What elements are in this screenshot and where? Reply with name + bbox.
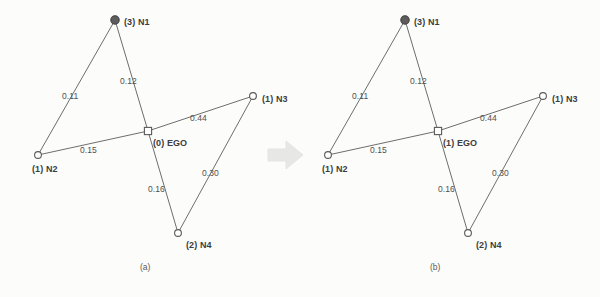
edge-weight-label: 0.12 [120, 77, 137, 86]
node-label-n4: (2) N4 [186, 241, 212, 250]
graph-node-ego[interactable] [144, 127, 151, 134]
node-label-n2: (1) N2 [32, 165, 58, 174]
edge-weight-label: 0.16 [438, 185, 455, 194]
edge-weight-label: 0.44 [480, 114, 497, 123]
graph-node-n2[interactable] [325, 152, 332, 159]
edge-weight-label: 0.30 [202, 169, 219, 178]
graph-edge [38, 20, 115, 155]
node-label-n3: (1) N3 [262, 95, 288, 104]
diagram-panel-b: (3) N1(1) N2(1) N3(2) N4(1) EGO0.110.120… [290, 0, 580, 297]
graph-node-n2[interactable] [35, 152, 42, 159]
node-label-n2: (1) N2 [322, 165, 348, 174]
graph-node-n4[interactable] [175, 230, 182, 237]
panel-caption-a: (a) [140, 262, 150, 272]
node-label-n3: (1) N3 [552, 95, 578, 104]
edge-weight-label: 0.30 [492, 169, 509, 178]
graph-node-n1[interactable] [401, 16, 409, 24]
node-label-ego: (0) EGO [153, 139, 187, 148]
graph-canvas-a [0, 0, 290, 297]
graph-node-n1[interactable] [111, 16, 119, 24]
node-label-ego: (1) EGO [443, 139, 477, 148]
edge-weight-label: 0.44 [190, 114, 207, 123]
node-label-n4: (2) N4 [476, 241, 502, 250]
node-label-n1: (3) N1 [124, 18, 150, 27]
edge-weight-label: 0.12 [410, 77, 427, 86]
graph-node-n4[interactable] [465, 230, 472, 237]
edge-weight-label: 0.16 [148, 185, 165, 194]
diagram-panel-a: (3) N1(1) N2(1) N3(2) N4(0) EGO0.110.120… [0, 0, 290, 297]
graph-node-n3[interactable] [540, 93, 547, 100]
graph-edge [328, 20, 405, 155]
graph-node-ego[interactable] [434, 127, 441, 134]
graph-node-n3[interactable] [250, 93, 257, 100]
edge-weight-label: 0.11 [62, 92, 78, 101]
graph-canvas-b [290, 0, 580, 297]
figure-container: (3) N1(1) N2(1) N3(2) N4(0) EGO0.110.120… [0, 0, 600, 297]
edge-weight-label: 0.15 [80, 146, 97, 155]
edge-weight-label: 0.15 [370, 146, 387, 155]
node-label-n1: (3) N1 [414, 18, 440, 27]
panel-caption-b: (b) [430, 262, 440, 272]
edge-weight-label: 0.11 [352, 92, 368, 101]
